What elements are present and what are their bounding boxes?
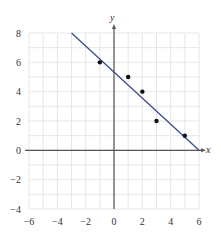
x-tick-label: −6 xyxy=(24,216,35,227)
x-tick-label: −2 xyxy=(80,216,91,227)
y-axis-label: y xyxy=(109,12,115,23)
axes xyxy=(25,24,206,209)
y-tick-label: 6 xyxy=(16,57,21,68)
data-point xyxy=(183,133,187,137)
data-point xyxy=(140,89,144,93)
x-tick-label: 0 xyxy=(112,216,117,227)
data-point xyxy=(126,75,130,79)
y-tick-label: −4 xyxy=(10,204,21,215)
x-tick-label: 6 xyxy=(197,216,202,227)
y-tick-label: 2 xyxy=(16,116,21,127)
x-tick-label: 4 xyxy=(168,216,173,227)
y-tick-label: −2 xyxy=(10,174,21,185)
y-tick-label: 8 xyxy=(16,28,21,39)
x-axis-label: x xyxy=(205,144,211,155)
scatter-chart: −6−4−20246−4−202468 x y xyxy=(0,0,221,242)
x-tick-label: 2 xyxy=(140,216,145,227)
y-tick-label: 0 xyxy=(16,145,21,156)
x-tick-label: −4 xyxy=(52,216,63,227)
data-point xyxy=(98,60,102,64)
y-axis-arrow-icon xyxy=(112,24,116,29)
y-tick-label: 4 xyxy=(16,86,21,97)
data-point xyxy=(154,119,158,123)
tick-labels: −6−4−20246−4−202468 xyxy=(10,28,201,228)
